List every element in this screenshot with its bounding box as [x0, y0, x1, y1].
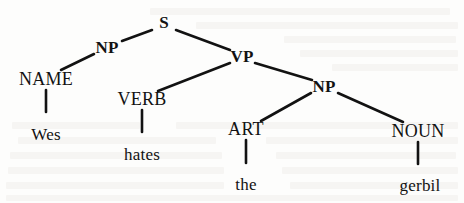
tree-node-noun: NOUN: [391, 122, 444, 140]
tree-edge-vp-to-np2: [255, 63, 312, 80]
tree-leaf-gerbil: gerbil: [400, 177, 441, 194]
tree-edge-s-to-np1: [122, 30, 152, 41]
tree-node-vp: VP: [230, 48, 253, 65]
syntax-tree-diagram: SNPVPNAMEVERBNPARTNOUNWeshatesthegerbil: [0, 0, 464, 203]
tree-edge-np2-to-noun: [338, 93, 403, 122]
tree-node-s: S: [159, 14, 169, 31]
tree-node-np1: NP: [95, 39, 118, 56]
tree-edge-s-to-vp: [176, 30, 230, 50]
tree-node-np2: NP: [312, 78, 335, 95]
tree-node-name: NAME: [19, 70, 73, 88]
tree-edges: [0, 0, 464, 203]
tree-node-verb: VERB: [117, 90, 166, 108]
tree-edge-np1-to-name: [61, 54, 94, 70]
tree-leaf-wes: Wes: [31, 126, 60, 143]
tree-node-art: ART: [228, 120, 264, 138]
tree-leaf-the: the: [235, 176, 256, 193]
tree-edge-vp-to-verb: [158, 63, 230, 91]
tree-edge-np2-to-art: [261, 93, 311, 121]
tree-leaf-hates: hates: [124, 146, 160, 163]
